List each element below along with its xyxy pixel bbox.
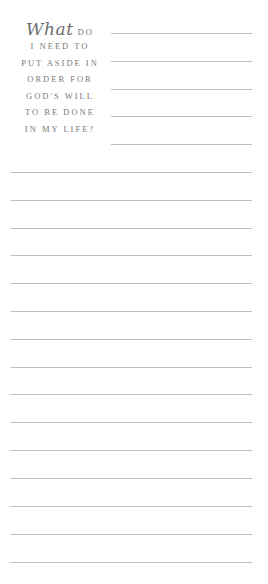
rule-dot [9,283,10,284]
writing-line-short[interactable] [111,89,252,90]
writing-line[interactable] [11,562,252,563]
writing-line[interactable] [11,506,252,507]
rule-dot [9,339,10,340]
writing-line[interactable] [11,283,252,284]
prompt-line-4: ORDER FOR [8,71,112,88]
writing-line-short[interactable] [111,61,252,62]
rule-dot [9,311,10,312]
rule-dot [9,450,10,451]
writing-line[interactable] [11,422,252,423]
prompt-line-6: TO BE DONE [8,104,112,121]
rule-dot [9,506,10,507]
writing-line-short[interactable] [111,33,252,34]
writing-line[interactable] [11,172,252,173]
writing-line-short[interactable] [111,144,252,145]
rule-dot [9,422,10,423]
rule-dot [9,534,10,535]
writing-line[interactable] [11,228,252,229]
rule-dot [9,200,10,201]
prompt-line-1: What DO [8,20,112,38]
writing-line[interactable] [11,255,252,256]
rule-dot [9,562,10,563]
journal-prompt: What DO I NEED TO PUT ASIDE IN ORDER FOR… [8,20,112,138]
writing-line[interactable] [11,339,252,340]
rule-dot [9,394,10,395]
prompt-script-word: What [26,19,73,39]
rule-dot [9,172,10,173]
rule-dot [9,367,10,368]
prompt-line-3: PUT ASIDE IN [8,55,112,72]
prompt-word-do: DO [78,27,94,37]
writing-line[interactable] [11,478,252,479]
prompt-line-2: I NEED TO [8,38,112,55]
writing-line[interactable] [11,394,252,395]
prompt-line-5: GOD'S WILL [8,88,112,105]
writing-line[interactable] [11,534,252,535]
writing-line[interactable] [11,367,252,368]
prompt-line-7: IN MY LIFE? [8,121,112,138]
rule-dot [9,255,10,256]
writing-line[interactable] [11,200,252,201]
rule-dot [9,478,10,479]
rule-dot [9,228,10,229]
writing-line[interactable] [11,311,252,312]
writing-line[interactable] [11,450,252,451]
writing-line-short[interactable] [111,116,252,117]
